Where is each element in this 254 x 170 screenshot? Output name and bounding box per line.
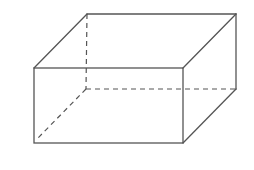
hidden-bottom-left-edge <box>36 89 86 140</box>
top-left-edge <box>34 14 87 68</box>
front-face <box>34 68 183 143</box>
hidden-vertical-edge <box>86 14 87 89</box>
visible-edges <box>34 14 236 143</box>
hidden-edges <box>36 14 236 140</box>
top-right-edge <box>183 14 236 68</box>
cuboid-diagram <box>0 0 254 170</box>
bottom-right-edge <box>183 89 236 143</box>
